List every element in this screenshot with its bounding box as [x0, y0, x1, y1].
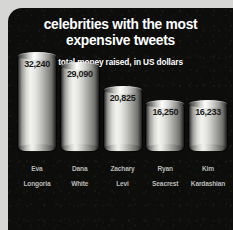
- bar-value-label: 16,233: [189, 107, 227, 117]
- bar-column-dana-white: 29,090 Dana White: [61, 65, 99, 188]
- category-name-line-1: Ryan: [157, 165, 173, 172]
- category-name-line-1: Kim: [202, 165, 214, 172]
- bar-chart-plot-area: 32,240 Eva Longoria 29,090 Dana White: [18, 86, 227, 188]
- bar-category-label-kim-kardashian: Kim Kardashian: [191, 158, 225, 188]
- chart-panel: celebrities with the most expensive twee…: [8, 8, 233, 230]
- page-title: celebrities with the most expensive twee…: [14, 17, 228, 48]
- bar-dana-white: 29,090: [61, 65, 99, 151]
- infographic-canvas: celebrities with the most expensive twee…: [0, 0, 233, 230]
- category-name-line-2: Kardashian: [191, 180, 225, 187]
- category-name-line-1: Eva: [31, 165, 42, 172]
- bar-kim-kardashian: 16,233: [189, 103, 227, 151]
- bar-value-label: 29,090: [61, 69, 99, 79]
- bar-eva-longoria: 32,240: [18, 55, 56, 151]
- bar-column-zachary-levi: 20,825 Zachary Levi: [104, 89, 142, 188]
- category-name-line-2: Levi: [116, 180, 129, 187]
- bar-category-label-dana-white: Dana White: [71, 158, 88, 188]
- page-title-line-2: expensive tweets: [14, 33, 228, 49]
- category-name-line-1: Dana: [72, 165, 88, 172]
- category-name-line-2: White: [71, 180, 88, 187]
- bar-category-label-ryan-seacrest: Ryan Seacrest: [152, 158, 178, 188]
- bar-column-kim-kardashian: 16,233 Kim Kardashian: [189, 103, 227, 188]
- page-title-line-1: celebrities with the most: [14, 17, 228, 33]
- bar-value-label: 16,250: [146, 107, 184, 117]
- bar-category-label-zachary-levi: Zachary Levi: [110, 158, 134, 188]
- bar-value-label: 32,240: [18, 59, 56, 69]
- bar-category-label-eva-longoria: Eva Longoria: [23, 158, 50, 188]
- category-name-line-1: Zachary: [110, 165, 134, 172]
- bar-column-eva-longoria: 32,240 Eva Longoria: [18, 55, 56, 188]
- bar-ryan-seacrest: 16,250: [146, 103, 184, 151]
- category-name-line-2: Seacrest: [152, 180, 178, 187]
- bar-column-ryan-seacrest: 16,250 Ryan Seacrest: [146, 103, 184, 188]
- bar-value-label: 20,825: [104, 93, 142, 103]
- category-name-line-2: Longoria: [23, 180, 50, 187]
- bar-zachary-levi: 20,825: [104, 89, 142, 151]
